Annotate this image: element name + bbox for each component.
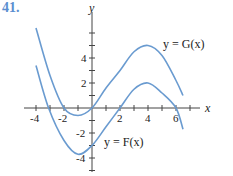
g-curve <box>36 28 183 116</box>
x-axis-label: x <box>204 101 211 115</box>
svg-text:-4: -4 <box>30 112 40 124</box>
f-curve-label: y = F(x) <box>104 135 143 149</box>
svg-text:2: 2 <box>81 77 87 89</box>
g-curve-label: y = G(x) <box>163 37 204 51</box>
y-axis-label: y <box>88 1 95 15</box>
svg-text:4: 4 <box>81 52 87 64</box>
svg-text:-4: -4 <box>76 152 86 164</box>
function-graph: x y y = G(x) y = F(x) -4-2246 42-2-4 <box>0 0 233 176</box>
svg-text:-2: -2 <box>58 112 67 124</box>
svg-text:-2: -2 <box>76 127 85 139</box>
svg-text:6: 6 <box>173 112 179 124</box>
svg-text:2: 2 <box>117 112 123 124</box>
svg-text:4: 4 <box>145 112 151 124</box>
